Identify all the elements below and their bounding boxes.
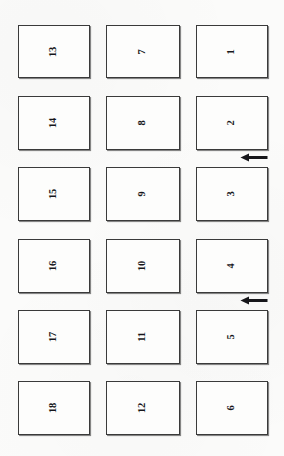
left-arrow-icon	[240, 295, 268, 306]
panel-5: 5	[196, 310, 268, 364]
panel-1: 1	[196, 25, 268, 78]
panel-label: 1	[227, 49, 238, 54]
panel-4: 4	[196, 239, 268, 293]
panel-label: 8	[138, 120, 149, 125]
figure-sheet: 137114821593161041711518126	[0, 0, 284, 456]
panel-2: 2	[196, 96, 268, 150]
panel-label: 16	[49, 261, 60, 271]
panel-label: 7	[138, 49, 149, 54]
panel-12: 12	[106, 381, 180, 435]
panel-label: 2	[227, 120, 238, 125]
panel-13: 13	[18, 25, 90, 78]
panel-label: 12	[138, 403, 149, 413]
panel-label: 13	[49, 46, 60, 56]
panel-label: 9	[138, 191, 149, 196]
panel-3: 3	[196, 167, 268, 221]
panel-label: 11	[138, 332, 149, 342]
panel-7: 7	[106, 25, 180, 78]
panel-14: 14	[18, 96, 90, 150]
panel-label: 10	[138, 261, 149, 271]
panel-11: 11	[106, 310, 180, 364]
panel-9: 9	[106, 167, 180, 221]
panel-8: 8	[106, 96, 180, 150]
panel-16: 16	[18, 239, 90, 293]
panel-label: 18	[49, 403, 60, 413]
panel-15: 15	[18, 167, 90, 221]
left-arrow-icon	[240, 152, 268, 163]
panel-label: 6	[227, 405, 238, 410]
panel-label: 17	[49, 332, 60, 342]
panel-10: 10	[106, 239, 180, 293]
panel-17: 17	[18, 310, 90, 364]
panel-label: 14	[49, 118, 60, 128]
panel-label: 15	[49, 189, 60, 199]
panel-label: 3	[227, 191, 238, 196]
panel-label: 4	[227, 263, 238, 268]
panel-label: 5	[227, 334, 238, 339]
panel-6: 6	[196, 381, 268, 435]
panel-18: 18	[18, 381, 90, 435]
